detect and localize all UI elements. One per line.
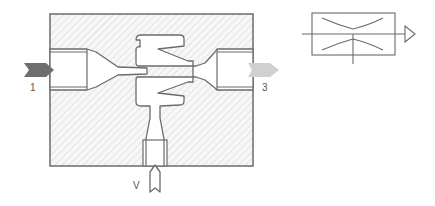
port-label-3: 3 <box>262 82 268 93</box>
vacuum-arrow-icon <box>150 165 160 192</box>
exhaust-arrow-icon <box>248 63 279 77</box>
port-label-v: V <box>133 180 140 191</box>
ejector-diagram: 1 3 V <box>0 0 435 206</box>
ejector-symbol <box>302 13 415 64</box>
symbol-exhaust-triangle-icon <box>405 26 415 42</box>
port-label-1: 1 <box>30 82 36 93</box>
